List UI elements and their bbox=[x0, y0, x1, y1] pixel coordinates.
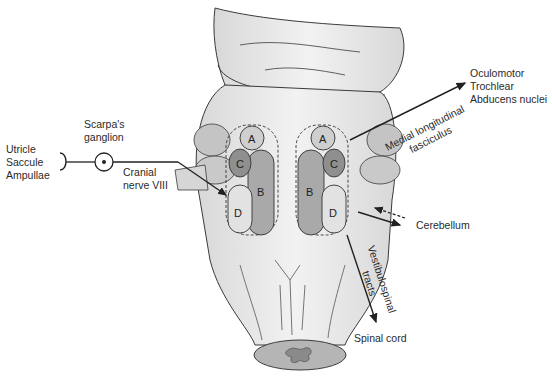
nerve-label: Cranial nerve VIII bbox=[123, 166, 168, 192]
svg-text:A: A bbox=[248, 133, 256, 145]
label-trochlear: Trochlear bbox=[470, 80, 547, 93]
svg-text:A: A bbox=[319, 133, 327, 145]
receptor-labels: Utricle Saccule Ampullae bbox=[6, 143, 50, 182]
svg-text:C: C bbox=[330, 158, 338, 170]
oculomotor-nuclei-labels: Oculomotor Trochlear Abducens nuclei bbox=[470, 67, 547, 106]
label-oculomotor: Oculomotor bbox=[470, 67, 547, 80]
brainstem-illustration: A C B D A C B D bbox=[0, 0, 552, 384]
label-utricle: Utricle bbox=[6, 143, 50, 156]
ganglion-label: Scarpa's ganglion bbox=[84, 118, 125, 144]
label-cranial: Cranial bbox=[123, 166, 168, 179]
spinal-cord-label: Spinal cord bbox=[354, 332, 407, 345]
svg-text:B: B bbox=[306, 186, 313, 198]
brainstem-body bbox=[196, 85, 396, 370]
label-nerve-viii: nerve VIII bbox=[123, 179, 168, 192]
svg-text:D: D bbox=[329, 207, 337, 219]
vestibular-pathway-diagram: A C B D A C B D bbox=[0, 0, 552, 384]
svg-text:D: D bbox=[234, 207, 242, 219]
label-scarpas: Scarpa's bbox=[84, 118, 125, 131]
label-ganglion: ganglion bbox=[84, 131, 125, 144]
cerebellum-label: Cerebellum bbox=[416, 219, 470, 232]
midbrain bbox=[214, 8, 404, 96]
label-abducens: Abducens nuclei bbox=[470, 93, 547, 106]
label-saccule: Saccule bbox=[6, 156, 50, 169]
svg-text:C: C bbox=[236, 158, 244, 170]
svg-text:B: B bbox=[257, 186, 264, 198]
label-ampullae: Ampullae bbox=[6, 169, 50, 182]
